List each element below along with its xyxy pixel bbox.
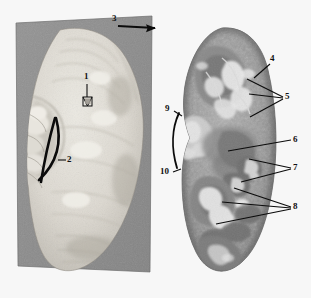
anatomical-figure: 1 2 3 4 5 6 7 8 9 10	[0, 0, 311, 298]
label-6: 6	[293, 135, 298, 144]
label-5: 5	[285, 92, 290, 101]
label-4: 4	[270, 54, 275, 63]
figure-canvas	[0, 0, 311, 298]
label-8: 8	[293, 202, 298, 211]
label-7: 7	[293, 163, 298, 172]
label-2: 2	[67, 155, 72, 164]
label-10: 10	[160, 167, 169, 176]
label-1: 1	[84, 72, 89, 81]
label-9: 9	[165, 104, 170, 113]
label-3: 3	[112, 14, 117, 23]
